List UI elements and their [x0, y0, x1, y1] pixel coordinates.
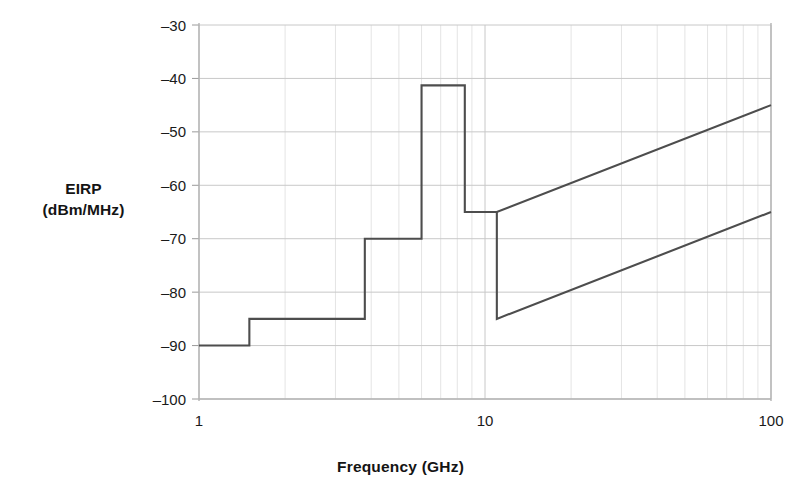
series-line — [497, 212, 771, 319]
eirp-frequency-chart: –30–40–50–60–70–80–90–100 110100 EIRP (d… — [0, 0, 801, 494]
x-tick-label: 10 — [477, 412, 494, 429]
y-axis-title: EIRP (dBm/MHz) — [6, 178, 161, 220]
x-tick-label: 100 — [758, 412, 783, 429]
y-tick-label: –100 — [153, 391, 186, 408]
x-tick-labels: 110100 — [195, 412, 784, 429]
y-tick-label: –80 — [161, 284, 186, 301]
x-axis-title: Frequency (GHz) — [0, 458, 801, 476]
y-tick-label: –30 — [161, 17, 186, 34]
chart-svg: –30–40–50–60–70–80–90–100 110100 — [0, 0, 801, 494]
y-axis-title-line1: EIRP — [6, 178, 161, 199]
x-tick-label: 1 — [195, 412, 203, 429]
y-tick-label: –40 — [161, 70, 186, 87]
y-tick-label: –70 — [161, 230, 186, 247]
y-tick-label: –50 — [161, 123, 186, 140]
y-tick-label: –60 — [161, 177, 186, 194]
y-axis-title-line2: (dBm/MHz) — [6, 199, 161, 220]
minor-gridlines — [285, 25, 758, 399]
y-tick-label: –90 — [161, 337, 186, 354]
